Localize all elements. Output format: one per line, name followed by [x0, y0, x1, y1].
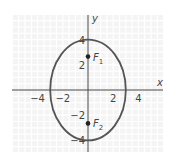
y-tick-label: −2 — [70, 110, 85, 121]
x-tick-label: −2 — [55, 93, 70, 104]
x-axis-label: x — [156, 77, 163, 88]
x-tick-label: 2 — [110, 93, 116, 104]
ellipse-chart: xy−4−22442−2−4F1F2 — [0, 0, 170, 158]
x-tick-label: −4 — [30, 93, 45, 104]
focus-point — [86, 121, 91, 126]
x-tick-label: 4 — [135, 93, 141, 104]
focus-point — [86, 54, 91, 59]
y-axis-label: y — [91, 13, 99, 24]
y-tick-label: 2 — [79, 60, 85, 71]
